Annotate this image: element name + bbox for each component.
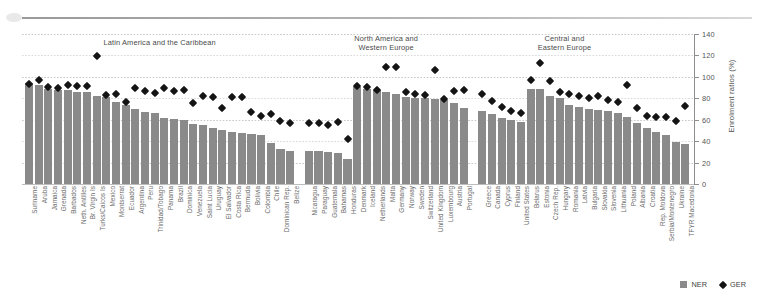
x-tick-label: Serbia/Montenegro (668, 186, 675, 241)
x-tick-label: Iceland (369, 186, 376, 207)
diamond-marker (421, 91, 429, 99)
diamond-marker (575, 92, 583, 100)
diamond-marker (642, 112, 650, 120)
diamond-marker (546, 77, 554, 85)
y-tick-label: 20 (702, 158, 711, 167)
x-tick-label: Paraguay (321, 186, 328, 214)
x-tick-label: Greece (485, 186, 492, 207)
y-tick (695, 77, 699, 78)
x-tick-label: Nicaragua (311, 186, 318, 216)
diamond-marker (363, 83, 371, 91)
diamond-marker (584, 94, 592, 102)
y-tick-label: 40 (702, 137, 711, 146)
x-tick-label: Trinidad/Tobago (157, 186, 164, 232)
x-tick-label: Aruba (41, 186, 48, 203)
x-tick-label: Bulgaria (591, 186, 598, 210)
diamond-marker (594, 92, 602, 100)
diamond-marker (633, 103, 641, 111)
plot-area (22, 34, 694, 184)
diamond-marker (238, 93, 246, 101)
diamond-marker (343, 135, 351, 143)
y-tick-label: 80 (702, 94, 711, 103)
diamond-marker (478, 90, 486, 98)
x-tick-label: Albania (639, 186, 646, 208)
y-tick (695, 55, 699, 56)
y-tick-label: 120 (702, 51, 715, 60)
x-tick-label: Canada (494, 186, 501, 209)
x-tick-label: Belarus (533, 186, 540, 208)
diamond-marker (54, 84, 62, 92)
x-tick-label: Barbados (70, 186, 77, 214)
x-tick-label: Venezuela (196, 186, 203, 216)
diamond-marker (44, 83, 52, 91)
y-axis-title: Enrolment ratios (%) (727, 59, 736, 132)
diamond-marker (218, 103, 226, 111)
diamond-marker (180, 85, 188, 93)
x-tick-label: Switzerland (427, 186, 434, 220)
x-tick-label: Costa Rica (235, 186, 242, 218)
diamond-marker (257, 112, 265, 120)
x-tick-label: Ukraine (678, 186, 685, 208)
x-tick-label: United States (523, 186, 530, 225)
diamond-marker (160, 84, 168, 92)
x-tick-label: Br. Virgin Is (89, 186, 96, 219)
diamond-marker (507, 107, 515, 115)
x-tick-label: Portugal (466, 186, 473, 210)
diamond-marker (151, 88, 159, 96)
diamond-marker (286, 118, 294, 126)
diamond-marker (247, 108, 255, 116)
x-tick-label: Finland (514, 186, 521, 207)
y-tick-label: 140 (702, 30, 715, 39)
y-tick-label: 100 (702, 72, 715, 81)
diamond-marker (623, 81, 631, 89)
x-tick-label: Uruguay (215, 186, 222, 211)
y-tick-label: 0 (702, 180, 706, 189)
diamond-marker (652, 113, 660, 121)
diamond-marker (392, 63, 400, 71)
x-tick-label: Ecuador (128, 186, 135, 210)
diamond-marker (411, 90, 419, 98)
diamond-marker (112, 90, 120, 98)
x-tick-label: Norway (408, 186, 415, 208)
chart-legend: NER GER (680, 280, 746, 289)
diamond-marker (613, 98, 621, 106)
diamond-marker (401, 87, 409, 95)
x-tick-label: Honduras (350, 186, 357, 214)
group-header: Central and Eastern Europe (478, 34, 650, 52)
diamond-marker (63, 81, 71, 89)
group-header: North America and Western Europe (305, 34, 468, 52)
y-tick (695, 120, 699, 121)
diamond-marker (353, 82, 361, 90)
diamond-marker (199, 92, 207, 100)
x-tick-label: Hungary (562, 186, 569, 211)
x-tick-label: Germany (398, 186, 405, 213)
x-tick-label: Dominican Rep. (283, 186, 290, 232)
x-tick-label: Montserrat (118, 186, 125, 217)
square-swatch-icon (680, 281, 687, 288)
diamond-marker (189, 99, 197, 107)
diamond-marker (450, 86, 458, 94)
diamond-marker (604, 96, 612, 104)
x-tick-label: Brazil (177, 186, 184, 202)
chart-page: 020406080100120140 Enrolment ratios (%) … (0, 0, 768, 307)
legend-item-ger: GER (720, 280, 746, 289)
x-axis-labels: SurinameArubaJamaicaGrenadaBarbadosNeth.… (22, 186, 694, 248)
x-tick-label: Estonia (543, 186, 550, 208)
diamond-marker (497, 102, 505, 110)
y-tick (695, 163, 699, 164)
diamond-marker (122, 98, 130, 106)
x-tick-label: Romania (572, 186, 579, 212)
x-tick-label: Chile (273, 186, 280, 201)
x-tick-label: Lithuania (620, 186, 627, 212)
x-tick-label: Sweden (418, 186, 425, 209)
diamond-marker (83, 82, 91, 90)
diamond-marker (314, 118, 322, 126)
x-tick-label: Austria (456, 186, 463, 206)
diamond-marker (102, 91, 110, 99)
diamond-marker (382, 63, 390, 71)
legend-label-ger: GER (730, 280, 746, 289)
x-tick-label: Belize (293, 186, 300, 204)
y-tick (695, 184, 699, 185)
x-tick-label: Bolivia (254, 186, 261, 205)
x-tick-label: United Kingdom (437, 186, 444, 232)
